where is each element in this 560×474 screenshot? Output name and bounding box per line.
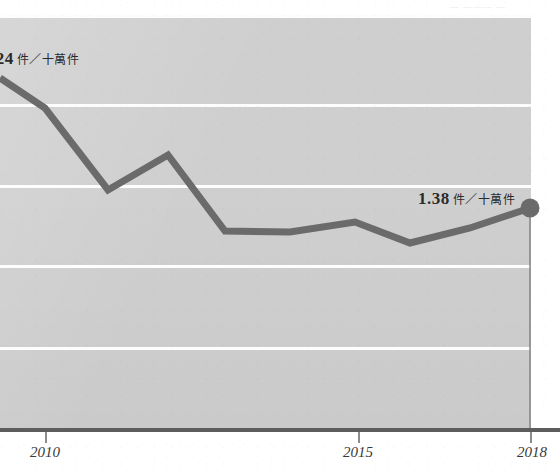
series-layer <box>0 0 560 474</box>
x-axis-tick <box>358 432 360 443</box>
annotation-end-number: 1.38 <box>418 189 450 208</box>
x-axis-tick <box>530 432 532 443</box>
annotation-end-unit: 件／十萬件 <box>453 193 516 207</box>
annotation-start-unit: 件／十萬件 <box>17 53 80 67</box>
x-axis-label-2018: 2018 <box>517 444 547 461</box>
trend-line <box>0 78 530 243</box>
x-axis-tick <box>45 432 47 443</box>
x-axis-label-2010: 2010 <box>30 444 60 461</box>
line-chart: — ——— — .24件／十萬件 1.38件／十萬件 2010 2015 201… <box>0 0 560 474</box>
annotation-end-value: 1.38件／十萬件 <box>418 190 515 207</box>
annotation-start-value: .24件／十萬件 <box>0 50 79 67</box>
endpoint-marker <box>521 199 540 218</box>
x-axis-line <box>0 428 560 432</box>
annotation-start-number: .24 <box>0 49 14 68</box>
x-axis-label-2015: 2015 <box>343 444 373 461</box>
